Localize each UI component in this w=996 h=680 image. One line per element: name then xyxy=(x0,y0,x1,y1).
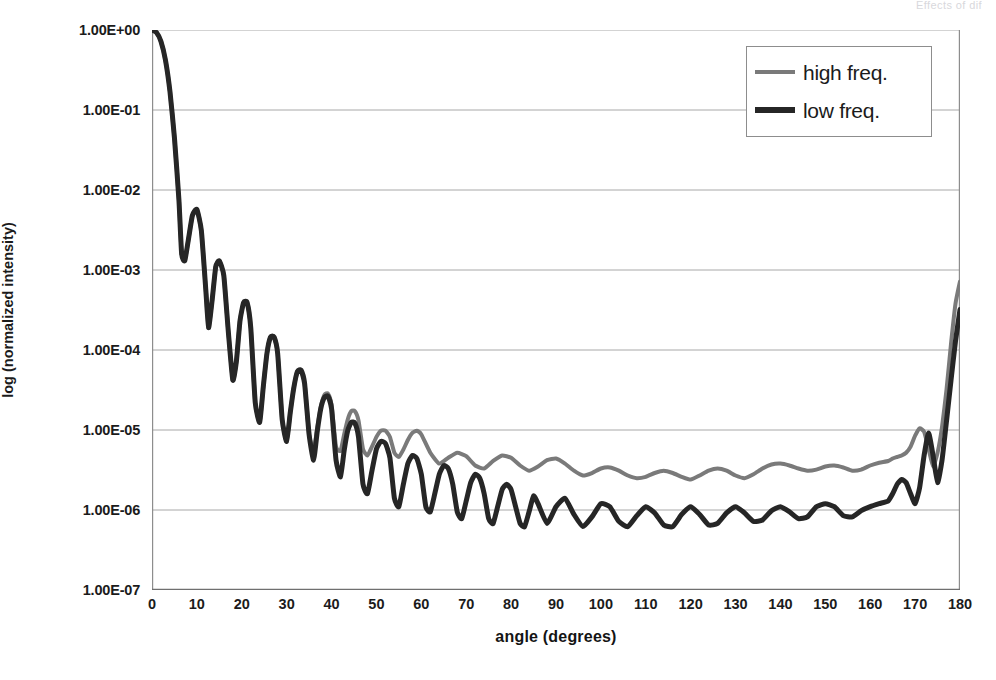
x-tick-label: 140 xyxy=(768,596,792,612)
chart-legend[interactable]: high freq. low freq. xyxy=(746,46,932,137)
x-tick-label: 60 xyxy=(413,596,429,612)
y-axis-tick-labels: 1.00E+001.00E-011.00E-021.00E-031.00E-04… xyxy=(0,0,152,620)
x-tick-label: 100 xyxy=(589,596,613,612)
x-tick-label: 70 xyxy=(458,596,474,612)
y-tick-label: 1.00E-01 xyxy=(83,102,140,118)
x-tick-label: 80 xyxy=(503,596,519,612)
x-tick-label: 0 xyxy=(148,596,156,612)
x-axis-title: angle (degrees) xyxy=(152,628,960,646)
chart-figure: Effects of dif log (normalized intensity… xyxy=(0,0,996,680)
x-tick-label: 120 xyxy=(679,596,703,612)
page-header-fragment: Effects of dif xyxy=(916,0,982,9)
y-tick-label: 1.00E-04 xyxy=(83,342,140,358)
y-tick-label: 1.00E+00 xyxy=(79,22,140,38)
legend-label-low-freq: low freq. xyxy=(803,100,880,121)
x-tick-label: 170 xyxy=(903,596,927,612)
y-tick-label: 1.00E-02 xyxy=(83,182,140,198)
legend-entry-low-freq[interactable]: low freq. xyxy=(755,91,923,129)
x-tick-label: 150 xyxy=(813,596,837,612)
legend-line-icon-high-freq xyxy=(755,70,795,74)
legend-entry-high-freq[interactable]: high freq. xyxy=(755,53,923,91)
x-tick-label: 90 xyxy=(548,596,564,612)
x-tick-label: 30 xyxy=(279,596,295,612)
x-tick-label: 130 xyxy=(723,596,747,612)
y-tick-label: 1.00E-03 xyxy=(83,262,140,278)
y-tick-label: 1.00E-05 xyxy=(83,422,140,438)
x-axis-tick-labels: 0102030405060708090100110120130140150160… xyxy=(152,596,960,622)
x-tick-label: 110 xyxy=(634,596,657,612)
x-tick-label: 10 xyxy=(189,596,205,612)
legend-line-icon-low-freq xyxy=(755,107,795,113)
y-tick-label: 1.00E-06 xyxy=(83,502,140,518)
x-tick-label: 40 xyxy=(323,596,339,612)
x-tick-label: 180 xyxy=(948,596,972,612)
x-tick-label: 20 xyxy=(234,596,250,612)
x-tick-label: 50 xyxy=(368,596,384,612)
y-tick-label: 1.00E-07 xyxy=(83,582,140,598)
x-tick-label: 160 xyxy=(858,596,882,612)
legend-label-high-freq: high freq. xyxy=(803,62,888,83)
